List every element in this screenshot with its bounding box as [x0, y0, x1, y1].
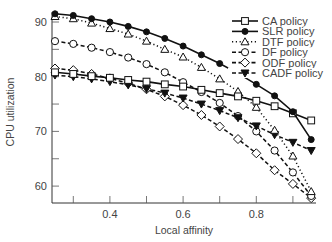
- x-tick-label: 0.6: [175, 208, 190, 220]
- diamond-marker: [197, 110, 206, 119]
- filled-circle-marker: [144, 29, 150, 35]
- filled-circle-marker: [198, 52, 204, 58]
- circle-marker: [106, 48, 113, 55]
- legend-label: CADF policy: [262, 67, 324, 79]
- triangle-marker: [307, 188, 315, 195]
- triangle-marker: [161, 45, 169, 52]
- filled-circle-marker: [217, 61, 223, 67]
- filled-circle-marker: [52, 11, 58, 17]
- triangle-marker: [197, 63, 205, 70]
- circle-marker: [125, 54, 132, 61]
- triangle-marker: [289, 152, 297, 159]
- square-marker: [216, 90, 223, 97]
- circle-marker: [143, 61, 150, 68]
- square-marker: [161, 81, 168, 88]
- circle-marker: [216, 99, 223, 106]
- filled-circle-marker: [242, 28, 248, 34]
- filled-circle-marker: [107, 19, 113, 25]
- square-marker: [70, 71, 77, 78]
- y-tick-label: 90: [35, 16, 47, 28]
- x-axis-label: Local affinity: [155, 224, 214, 236]
- square-marker: [198, 86, 205, 93]
- y-axis-label: CPU utilization: [4, 77, 16, 146]
- triangle-marker: [216, 75, 224, 82]
- square-marker: [52, 69, 59, 76]
- triangle-marker: [179, 53, 187, 60]
- filled-circle-marker: [308, 137, 314, 143]
- cpu-utilization-chart: 607080900.40.60.8 CA policySLR policyDTF…: [0, 0, 332, 242]
- circle-marker: [51, 38, 58, 45]
- x-tick-label: 0.8: [249, 208, 264, 220]
- legend-item: CADF policy: [228, 67, 328, 79]
- triangle-marker: [271, 126, 279, 133]
- circle-marker: [241, 49, 248, 56]
- circle-marker: [88, 44, 95, 51]
- circle-marker: [161, 69, 168, 76]
- square-marker: [107, 74, 114, 81]
- filled-circle-marker: [290, 109, 296, 115]
- square-marker: [88, 73, 95, 80]
- circle-marker: [70, 40, 77, 47]
- square-marker: [271, 103, 278, 110]
- filled-circle-marker: [180, 43, 186, 49]
- square-marker: [308, 117, 315, 124]
- legend: CA policySLR policyDTF policyDF policyOD…: [228, 15, 328, 79]
- square-marker: [235, 93, 242, 100]
- filled-circle-marker: [162, 35, 168, 41]
- x-tick-label: 0.4: [102, 208, 117, 220]
- square-marker: [180, 83, 187, 90]
- square-marker: [253, 97, 260, 104]
- square-marker: [242, 18, 249, 25]
- circle-marker: [271, 147, 278, 154]
- square-marker: [125, 77, 132, 84]
- square-marker: [143, 78, 150, 85]
- y-tick-label: 70: [35, 125, 47, 137]
- down-triangle-marker: [289, 139, 297, 146]
- diamond-marker: [215, 122, 224, 131]
- filled-circle-marker: [272, 93, 278, 99]
- down-triangle-marker: [307, 148, 315, 155]
- circle-marker: [289, 169, 296, 176]
- filled-circle-marker: [125, 23, 131, 29]
- filled-circle-marker: [253, 81, 259, 87]
- filled-circle-marker: [70, 12, 76, 18]
- filled-circle-marker: [89, 16, 95, 22]
- y-tick-label: 80: [35, 71, 47, 83]
- y-tick-label: 60: [35, 180, 47, 192]
